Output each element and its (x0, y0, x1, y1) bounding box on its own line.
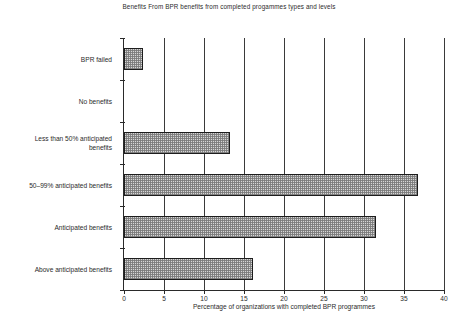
x-tick-label: 5 (162, 295, 166, 302)
x-tick-20 (284, 290, 285, 294)
x-axis-title: Percentage of organizations with complet… (124, 303, 444, 310)
x-tick-label: 40 (440, 295, 447, 302)
x-tick-label: 20 (280, 295, 287, 302)
x-tick-label: 25 (320, 295, 327, 302)
chart-title: Benefits From BPR benefits from complete… (0, 3, 458, 10)
x-tick-0 (124, 290, 125, 294)
y-axis-label: No benefits (0, 97, 112, 106)
x-tick-15 (244, 290, 245, 294)
y-axis-label: Anticipated benefits (0, 223, 112, 232)
gridline-35 (404, 38, 405, 290)
gridline-10 (204, 38, 205, 290)
gridline-25 (324, 38, 325, 290)
gridline-20 (284, 38, 285, 290)
x-tick-30 (364, 290, 365, 294)
bar (124, 258, 253, 280)
x-tick-label: 15 (240, 295, 247, 302)
x-tick-label: 35 (400, 295, 407, 302)
y-tick (120, 164, 125, 165)
gridline-40 (444, 38, 445, 290)
x-tick-10 (204, 290, 205, 294)
y-axis-label: Less than 50% anticipated benefits (0, 134, 112, 152)
chart-figure: Benefits From BPR benefits from complete… (0, 0, 458, 329)
y-tick (120, 38, 125, 39)
bar (124, 48, 143, 70)
x-tick-5 (164, 290, 165, 294)
x-tick-label: 30 (360, 295, 367, 302)
y-tick (120, 80, 125, 81)
bar (124, 132, 230, 154)
y-axis-label: 50–99% anticipated benefits (0, 181, 112, 190)
y-tick (120, 248, 125, 249)
plot-area: 0510152025303540 (124, 38, 444, 290)
x-tick-label: 0 (122, 295, 126, 302)
y-axis-label: BPR failed (0, 55, 112, 64)
bar (124, 216, 376, 238)
y-tick (120, 122, 125, 123)
y-axis-category-labels: BPR failedNo benefitsLess than 50% antic… (0, 38, 118, 290)
gridline-5 (164, 38, 165, 290)
x-tick-40 (444, 290, 445, 294)
x-tick-label: 10 (200, 295, 207, 302)
gridline-30 (364, 38, 365, 290)
x-tick-25 (324, 290, 325, 294)
bar (124, 174, 418, 196)
x-tick-35 (404, 290, 405, 294)
y-tick (120, 206, 125, 207)
y-axis-label: Above anticipated benefits (0, 265, 112, 274)
gridline-15 (244, 38, 245, 290)
